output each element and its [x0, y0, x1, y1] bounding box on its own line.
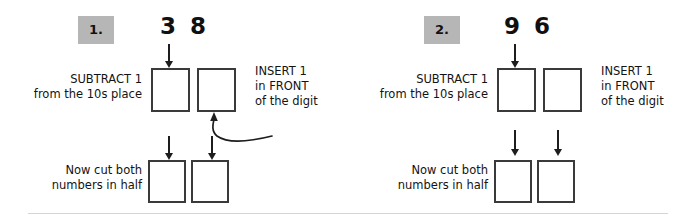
problem-panel-2: 2. 9 6 SUBTRACT 1 from the 10s place INS… — [346, 0, 692, 205]
problem-number-badge: 1. — [78, 16, 114, 44]
problem-panel-1: 1. 3 8 SUBTRACT 1 from the 10s place INS… — [0, 0, 346, 205]
answer-box-bottom-ones[interactable] — [537, 160, 575, 203]
cut-in-half-instruction-label: Now cut both numbers in half — [12, 163, 142, 193]
problem-number-badge: 2. — [424, 16, 460, 44]
insert-instruction-label: INSERT 1 in FRONT of the digit — [255, 64, 345, 109]
answer-box-top-ones[interactable] — [197, 68, 236, 112]
arrow-down-icon-digit-to-box — [163, 44, 175, 68]
answer-box-top-tens[interactable] — [151, 68, 190, 112]
answer-box-bottom-tens[interactable] — [148, 160, 186, 203]
arrow-down-icon-digit-to-box — [509, 44, 521, 68]
answer-box-top-tens[interactable] — [497, 68, 536, 112]
insert-instruction-label: INSERT 1 in FRONT of the digit — [601, 64, 691, 109]
answer-box-bottom-ones[interactable] — [191, 160, 229, 203]
arrow-down-icon-ones-to-half — [206, 136, 218, 160]
cut-in-half-instruction-label: Now cut both numbers in half — [358, 163, 488, 193]
source-digits: 3 8 — [160, 13, 209, 39]
subtract-instruction-label: SUBTRACT 1 from the 10s place — [12, 72, 142, 102]
answer-box-bottom-tens[interactable] — [494, 160, 532, 203]
source-digits: 9 6 — [504, 13, 553, 39]
footer-divider — [28, 213, 668, 214]
arrow-down-icon-tens-to-half — [163, 136, 175, 160]
subtract-instruction-label: SUBTRACT 1 from the 10s place — [358, 72, 488, 102]
arrow-down-icon-tens-to-half — [509, 130, 521, 156]
answer-box-top-ones[interactable] — [543, 68, 582, 112]
arrow-down-icon-ones-to-half — [552, 130, 564, 156]
worksheet: 1. 3 8 SUBTRACT 1 from the 10s place INS… — [0, 0, 692, 219]
